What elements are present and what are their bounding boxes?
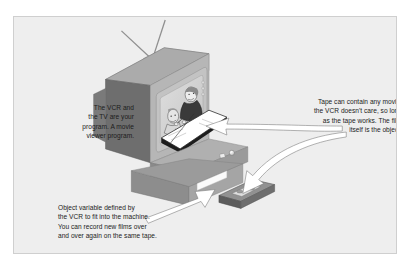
caption-left-vcr-tv-program: The VCR and the TV are your program. A m… — [28, 103, 134, 140]
tv-control-dots — [202, 81, 205, 96]
illustration-figure: The VCR and the TV are your program. A m… — [0, 0, 415, 272]
caption-bottom-object-variable: Object variable defined by the VCR to fi… — [58, 203, 218, 240]
illustration-panel: The VCR and the TV are your program. A m… — [13, 16, 397, 254]
caption-right-tape-film-object: Tape can contain any movie, the VCR does… — [252, 97, 397, 134]
arrow-to-tape-from-right-icon — [243, 132, 346, 193]
